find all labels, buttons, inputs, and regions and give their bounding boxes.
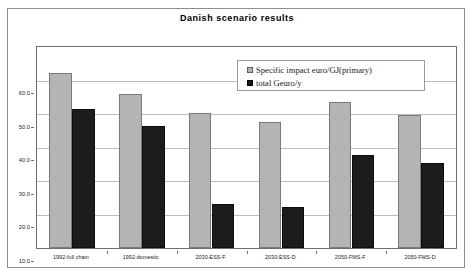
- y-tick-mark: [31, 194, 34, 195]
- x-tick-label: 2050-FMS-D: [404, 254, 435, 260]
- bar-group: [189, 47, 235, 248]
- legend-item[interactable]: Specific impact euro/GJ(primary): [247, 64, 424, 76]
- bar[interactable]: [119, 94, 142, 248]
- legend-label: Specific impact euro/GJ(primary): [256, 66, 372, 75]
- chart-legend: Specific impact euro/GJ(primary)total Ge…: [237, 60, 425, 91]
- chart-title: Danish scenario results: [0, 13, 474, 23]
- y-tick-mark: [31, 160, 34, 161]
- x-tick-mark: [107, 251, 108, 254]
- bar[interactable]: [189, 113, 212, 248]
- bar-group: [49, 47, 95, 248]
- x-tick-mark: [247, 251, 248, 254]
- y-tick-label: 10.0: [19, 258, 30, 264]
- x-tick-mark: [316, 251, 317, 254]
- y-tick-mark: [31, 93, 34, 94]
- x-tick-mark: [177, 251, 178, 254]
- bar[interactable]: [421, 163, 444, 248]
- y-tick-mark: [31, 127, 34, 128]
- y-tick-mark: [31, 261, 34, 262]
- legend-label: total Geuro/y: [256, 79, 302, 88]
- gridline: [37, 215, 456, 216]
- chart-screenshot: Danish scenario results 60.050.040.030.0…: [0, 0, 474, 277]
- x-axis: 1992-full chain1992-domestic2030-ESS-F20…: [36, 251, 457, 265]
- x-tick-label: 2050-FMS-F: [335, 254, 366, 260]
- gridline: [37, 148, 456, 149]
- bar[interactable]: [49, 73, 72, 248]
- legend-swatch-icon: [247, 80, 253, 86]
- x-tick-label: 2030-ESS-D: [265, 254, 296, 260]
- bar[interactable]: [329, 102, 352, 248]
- bar[interactable]: [212, 204, 235, 248]
- bar[interactable]: [72, 109, 95, 248]
- y-tick-label: 50.0: [19, 124, 30, 130]
- y-tick-label: 40.0: [19, 157, 30, 163]
- y-axis: 60.050.040.030.020.010.00.0: [0, 46, 34, 249]
- legend-item[interactable]: total Geuro/y: [247, 77, 424, 89]
- x-tick-mark: [386, 251, 387, 254]
- bar[interactable]: [259, 122, 282, 248]
- bar[interactable]: [142, 126, 165, 248]
- y-tick-label: 60.0: [19, 90, 30, 96]
- gridline: [37, 181, 456, 182]
- bar[interactable]: [398, 115, 421, 248]
- y-tick-label: 20.0: [19, 224, 30, 230]
- gridline: [37, 114, 456, 115]
- x-tick-label: 2030-ESS-F: [195, 254, 225, 260]
- bar-group: [119, 47, 165, 248]
- bar[interactable]: [282, 207, 305, 248]
- legend-swatch-icon: [247, 67, 253, 73]
- x-tick-label: 1992-full chain: [53, 254, 89, 260]
- x-tick-label: 1992-domestic: [123, 254, 159, 260]
- bar[interactable]: [352, 155, 375, 248]
- y-tick-mark: [31, 227, 34, 228]
- y-tick-label: 30.0: [19, 191, 30, 197]
